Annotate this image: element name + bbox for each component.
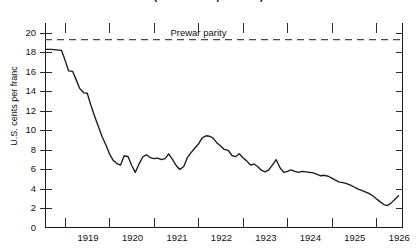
- y-tick-label: 6: [10, 164, 36, 173]
- x-tick-label: 1923: [241, 233, 291, 243]
- y-tick-mark-right: [396, 91, 403, 92]
- x-tick-mark-bottom: [198, 218, 199, 228]
- y-tick-mark-right: [396, 33, 403, 34]
- x-tick-mark-top: [332, 23, 333, 33]
- x-tick-label: 1922: [196, 233, 246, 243]
- y-tick-label: 8: [10, 145, 36, 154]
- x-tick-mark-bottom: [332, 218, 333, 228]
- y-tick-label: 12: [10, 106, 36, 115]
- y-tick-label: 10: [10, 125, 36, 134]
- x-tick-mark-top: [376, 23, 377, 33]
- y-tick-mark: [40, 52, 52, 53]
- y-tick-label: 20: [10, 28, 36, 37]
- y-tick-label: 4: [10, 184, 36, 193]
- y-tick-mark-right: [396, 130, 403, 131]
- x-tick-label: 1925: [330, 233, 380, 243]
- x-tick-mark-bottom: [376, 218, 377, 228]
- y-tick-mark: [40, 130, 52, 131]
- y-tick-mark-right: [396, 189, 403, 190]
- x-tick-label: 1919: [63, 233, 113, 243]
- y-tick-mark-right: [396, 169, 403, 170]
- x-tick-mark-top: [65, 23, 66, 33]
- y-tick-mark: [40, 33, 52, 34]
- y-tick-mark-right: [396, 72, 403, 73]
- y-tick-mark-right: [396, 150, 403, 151]
- y-tick-mark: [40, 111, 52, 112]
- exchange-rate-line: [46, 49, 398, 205]
- y-tick-mark: [40, 91, 52, 92]
- y-tick-mark: [40, 189, 52, 190]
- y-tick-label: 0: [10, 223, 36, 232]
- x-tick-mark-bottom: [243, 218, 244, 228]
- x-tick-mark-top: [287, 23, 288, 33]
- y-tick-label: 14: [10, 86, 36, 95]
- x-tick-mark-top: [198, 23, 199, 33]
- chart-container: (U.S. dollars per franc) U.S. cents per …: [0, 0, 417, 249]
- x-tick-mark-bottom: [109, 218, 110, 228]
- y-tick-mark-right: [396, 52, 403, 53]
- data-layer: [45, 23, 403, 228]
- x-tick-mark-bottom: [65, 218, 66, 228]
- y-tick-mark: [40, 169, 52, 170]
- y-tick-mark: [40, 150, 52, 151]
- x-tick-label: 1926: [374, 233, 417, 243]
- x-tick-label: 1924: [285, 233, 335, 243]
- x-tick-label: 1921: [152, 233, 202, 243]
- x-tick-mark-bottom: [154, 218, 155, 228]
- x-tick-mark-bottom: [287, 218, 288, 228]
- y-tick-label: 18: [10, 47, 36, 56]
- y-tick-mark: [40, 208, 52, 209]
- x-tick-label: 1920: [107, 233, 157, 243]
- y-tick-mark-right: [396, 111, 403, 112]
- chart-title: (U.S. dollars per franc): [0, 0, 417, 2]
- x-tick-mark-top: [109, 23, 110, 33]
- y-tick-label: 16: [10, 67, 36, 76]
- plot-area: [45, 23, 403, 228]
- y-tick-mark: [40, 72, 52, 73]
- y-tick-mark-right: [396, 208, 403, 209]
- x-tick-mark-top: [243, 23, 244, 33]
- y-tick-label: 2: [10, 203, 36, 212]
- x-tick-mark-top: [154, 23, 155, 33]
